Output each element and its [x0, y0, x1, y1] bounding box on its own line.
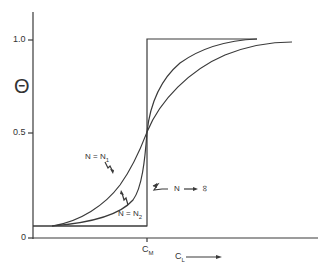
x-tick-label-cm: CM: [142, 245, 154, 256]
y-tick-label-1: 1.0: [13, 35, 26, 44]
label-n-equals-n1: N = N1: [85, 153, 109, 163]
curve-n1: [52, 42, 292, 226]
arrow-n2: [122, 193, 128, 205]
cooperative-binding-diagram: 1.0 0.5 0 Θ CM CL N = N1 N = N2 N ∞: [0, 0, 329, 278]
curve-n2: [52, 39, 257, 226]
label-n-equals-n2: N = N2: [118, 210, 142, 220]
y-tick-label-0: 0: [21, 233, 26, 242]
y-tick-label-0-5: 0.5: [13, 128, 26, 137]
plot-canvas: [0, 0, 329, 278]
label-n-step: N: [174, 185, 180, 193]
y-axis-label-theta: Θ: [14, 76, 30, 96]
step-curve-n-infinity: [33, 39, 257, 226]
label-infinity: ∞: [200, 185, 209, 191]
arrowhead-n-infinity: [193, 187, 198, 191]
arrowhead-n1: [110, 169, 114, 174]
arrowhead-cl: [216, 255, 222, 259]
x-axis-label-cl: CL: [175, 252, 185, 263]
arrowhead-n2: [120, 190, 124, 195]
